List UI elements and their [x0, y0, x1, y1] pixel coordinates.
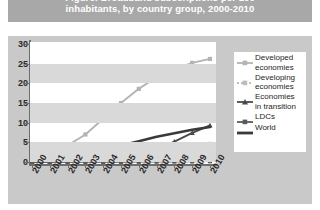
- plot-area-wrap: [30, 42, 216, 164]
- x-axis-tick: [192, 165, 193, 168]
- legend-label-line-1: Economies: [255, 92, 307, 102]
- figure-root: Figure: Broadband subscriptions per 100 …: [0, 0, 320, 210]
- plot-band: [30, 103, 216, 123]
- legend-developing-economies[interactable]: Developingeconomies: [234, 74, 306, 84]
- x-axis-tick: [174, 165, 175, 168]
- x-axis: 2000200120022003200420052006200720082009…: [8, 166, 238, 206]
- x-axis-tick: [85, 165, 86, 168]
- plot-band: [30, 64, 216, 84]
- legend-label-line-1: LDCs: [255, 112, 307, 122]
- legend-label-line-2: economies: [255, 82, 307, 92]
- legend-economies-in-transition[interactable]: Economiesin transition: [234, 93, 306, 103]
- legend-label: LDCs: [255, 112, 307, 122]
- y-axis-tick: [25, 44, 29, 45]
- legend-marker-icon: [236, 113, 254, 123]
- legend-label: Developedeconomies: [255, 53, 307, 72]
- x-axis-tick: [68, 165, 69, 168]
- legend-developed-economies[interactable]: Developedeconomies: [234, 54, 306, 64]
- legend-marker-icon: [236, 93, 254, 103]
- x-axis-tick: [157, 165, 158, 168]
- plot-area: [30, 42, 216, 164]
- series-marker: [208, 57, 212, 61]
- x-axis-tick: [50, 165, 51, 168]
- y-axis-tick: [25, 83, 29, 84]
- x-axis-tick: [32, 165, 33, 168]
- legend-label-line-1: World: [255, 123, 307, 133]
- legend-label: Developingeconomies: [255, 73, 307, 92]
- y-axis-tick: [25, 123, 29, 124]
- chart-legend: DevelopedeconomiesDevelopingeconomiesEco…: [234, 52, 306, 152]
- y-axis-tick: [25, 142, 29, 143]
- legend-label-line-2: in transition: [255, 102, 307, 112]
- figure-title-banner: Figure: Broadband subscriptions per 100 …: [8, 0, 312, 22]
- x-axis-tick: [121, 165, 122, 168]
- y-axis-tick: [25, 103, 29, 104]
- legend-world[interactable]: World: [234, 124, 306, 134]
- legend-label-line-1: Developing: [255, 73, 307, 83]
- legend-label-line-1: Developed: [255, 53, 307, 63]
- legend-label: Economiesin transition: [255, 92, 307, 111]
- legend-marker-icon: [236, 54, 254, 64]
- legend-label: World: [255, 123, 307, 133]
- x-axis-tick: [139, 165, 140, 168]
- x-axis-tick: [103, 165, 104, 168]
- y-axis-tick: [25, 64, 29, 65]
- series-marker: [83, 132, 87, 136]
- legend-marker-icon: [236, 124, 254, 134]
- legend-label-line-2: economies: [255, 63, 307, 73]
- chart-panel: 051015202530 200020012002200320042005200…: [8, 36, 312, 204]
- y-axis-tick: [25, 162, 29, 163]
- legend-marker-icon: [236, 74, 254, 84]
- figure-title-line-2: inhabitants, by country group, 2000-2010: [8, 3, 312, 14]
- series-marker: [137, 87, 141, 91]
- x-axis-tick: [210, 165, 211, 168]
- legend-ldcs[interactable]: LDCs: [234, 113, 306, 123]
